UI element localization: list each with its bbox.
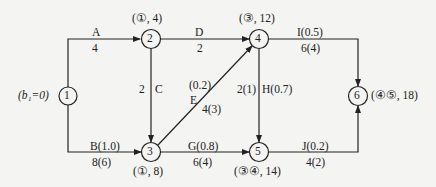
edge-A-duration: 4: [92, 43, 98, 55]
edge-J-duration: 4(2): [306, 157, 325, 169]
node-1-label: 1: [64, 90, 70, 102]
edge-E-name: E: [190, 95, 197, 107]
edge-A-name: A: [92, 27, 100, 39]
edge-E: [158, 46, 252, 145]
node-6-annotation: (④⑤, 18): [371, 90, 418, 102]
edge-E-cost: (0.2): [189, 80, 211, 92]
edge-D-name: D: [195, 27, 203, 39]
edge-C-name: C: [155, 84, 163, 96]
edge-E-duration: 4(3): [202, 104, 221, 116]
edge-G-name: G(0.8): [188, 141, 218, 153]
edge-J-name: J(0.2): [302, 141, 329, 153]
node-6-label: 6: [354, 90, 360, 102]
edge-H-duration: 2(1): [237, 84, 256, 96]
edge-C-duration: 2: [139, 84, 145, 96]
edge-I-duration: 6(4): [301, 43, 320, 55]
network-diagram: 1 2 3 4 5 6 (b₁=0) (①, 4) (①, 8) (③, 12)…: [0, 0, 436, 187]
edge-A: [68, 39, 140, 87]
edge-H-name: H(0.7): [262, 84, 292, 96]
edge-B-duration: 8(6): [92, 157, 111, 169]
node-1-annotation: (b₁=0): [18, 90, 49, 102]
node-5-annotation: (③④, 14): [234, 166, 281, 178]
node-2-label: 2: [147, 33, 153, 45]
node-3-label: 3: [147, 146, 153, 158]
edge-D-duration: 2: [197, 43, 203, 55]
edge-G-duration: 6(4): [193, 157, 212, 169]
node-3-annotation: (①, 8): [133, 166, 163, 178]
node-2-annotation: (①, 4): [132, 13, 162, 25]
node-5-label: 5: [255, 146, 261, 158]
edge-I-name: I(0.5): [297, 27, 323, 39]
edge-B-name: B(1.0): [90, 141, 120, 153]
node-4-label: 4: [255, 33, 261, 45]
node-4-annotation: (③, 12): [239, 13, 275, 25]
